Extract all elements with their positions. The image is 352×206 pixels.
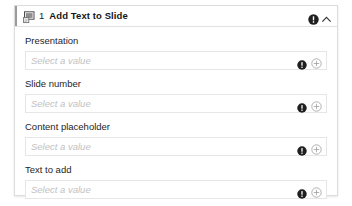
- input-actions: [297, 181, 322, 198]
- field-slide-number: Slide number Select a value: [25, 70, 327, 113]
- card-header[interactable]: 1 Add Text to Slide: [15, 6, 337, 27]
- field-text-to-add: Text to add Select a value: [25, 156, 327, 199]
- alert-exclamation-icon[interactable]: [297, 142, 307, 152]
- circle-plus-icon[interactable]: [311, 184, 322, 195]
- circle-plus-icon[interactable]: [311, 98, 322, 109]
- card-body: Presentation Select a value: [15, 27, 337, 199]
- field-label: Text to add: [25, 164, 327, 176]
- input-placeholder: Select a value: [26, 185, 91, 195]
- input-actions: [297, 52, 322, 69]
- header-accent-bar: [15, 6, 17, 26]
- field-label: Content placeholder: [25, 121, 327, 133]
- alert-exclamation-icon[interactable]: [297, 99, 307, 109]
- input-placeholder: Select a value: [26, 142, 91, 152]
- alert-exclamation-icon[interactable]: [297, 185, 307, 195]
- screen-root: 1 Add Text to Slide: [0, 0, 352, 206]
- content-placeholder-input[interactable]: Select a value: [25, 137, 327, 156]
- slide-number-input[interactable]: Select a value: [25, 94, 327, 113]
- field-label: Slide number: [25, 78, 327, 90]
- field-label: Presentation: [25, 35, 327, 47]
- presentation-input[interactable]: Select a value: [25, 51, 327, 70]
- circle-plus-icon[interactable]: [311, 55, 322, 66]
- input-placeholder: Select a value: [26, 99, 91, 109]
- text-to-add-input[interactable]: Select a value: [25, 180, 327, 199]
- slide-icon: [23, 10, 36, 23]
- card-title: Add Text to Slide: [49, 11, 128, 21]
- alert-exclamation-icon[interactable]: [297, 56, 307, 66]
- header-actions: [308, 6, 332, 26]
- alert-exclamation-icon[interactable]: [308, 11, 319, 22]
- circle-plus-icon[interactable]: [311, 141, 322, 152]
- input-actions: [297, 95, 322, 112]
- field-presentation: Presentation Select a value: [25, 27, 327, 70]
- input-placeholder: Select a value: [26, 56, 91, 66]
- chevron-up-icon[interactable]: [321, 11, 332, 22]
- step-number: 1: [39, 11, 44, 21]
- input-actions: [297, 138, 322, 155]
- field-content-placeholder: Content placeholder Select a value: [25, 113, 327, 156]
- action-card: 1 Add Text to Slide: [14, 5, 338, 196]
